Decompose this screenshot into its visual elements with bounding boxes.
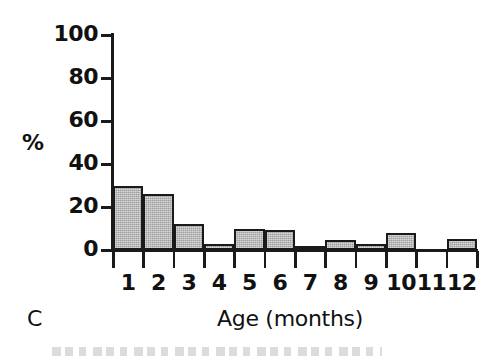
x-tick-label-10: 10 (384, 272, 418, 294)
x-tick-label-4: 4 (202, 272, 236, 294)
bar-month-8 (325, 240, 355, 250)
y-tick-0 (101, 249, 112, 252)
x-tick-3 (203, 251, 206, 268)
x-tick-6 (294, 251, 297, 268)
x-axis-title: Age (months) (160, 308, 420, 330)
x-tick-5 (264, 251, 267, 268)
bar-month-3 (174, 224, 204, 250)
x-tick-label-12: 12 (445, 272, 479, 294)
y-tick-label-40: 40 (20, 152, 98, 176)
x-tick-label-3: 3 (172, 272, 206, 294)
x-tick-label-6: 6 (263, 272, 297, 294)
y-tick-label-text: 60 (68, 109, 98, 131)
y-tick-label-100: 100 (20, 23, 98, 47)
x-tick-4 (233, 251, 236, 268)
y-tick-label-text: 40 (68, 152, 98, 174)
x-tick-label-8: 8 (324, 272, 358, 294)
bar-month-10 (386, 233, 416, 250)
y-tick-label-80: 80 (20, 66, 98, 90)
plot-area (113, 35, 477, 250)
y-tick-60 (101, 120, 112, 123)
y-tick-label-text: 100 (54, 23, 98, 45)
y-tick-label-60: 60 (20, 109, 98, 133)
y-tick-label-20: 20 (20, 195, 98, 219)
x-tick-1 (142, 251, 145, 268)
x-tick-label-1: 1 (111, 272, 145, 294)
x-tick-label-2: 2 (142, 272, 176, 294)
x-tick-label-5: 5 (233, 272, 267, 294)
y-tick-100 (101, 34, 112, 37)
y-axis-title: % (22, 132, 44, 154)
bar-month-4 (204, 244, 234, 250)
bar-month-5 (234, 229, 264, 251)
y-tick-label-text: 20 (68, 195, 98, 217)
x-tick-8 (355, 251, 358, 268)
y-tick-label-text: 80 (68, 66, 98, 88)
x-tick-2 (173, 251, 176, 268)
panel-label: C (27, 308, 42, 330)
bar-chart-figure: % 020406080100 123456789101112 Age (mont… (0, 0, 499, 358)
bar-month-2 (143, 194, 173, 250)
x-tick-11 (446, 251, 449, 268)
y-tick-40 (101, 163, 112, 166)
y-tick-label-0: 0 (20, 238, 98, 262)
bar-month-7 (295, 246, 325, 250)
y-tick-20 (101, 206, 112, 209)
x-tick-12 (476, 251, 479, 268)
x-tick-9 (385, 251, 388, 268)
bar-month-9 (356, 244, 386, 250)
y-tick-80 (101, 77, 112, 80)
x-tick-7 (324, 251, 327, 268)
x-tick-label-9: 9 (354, 272, 388, 294)
x-tick-10 (415, 251, 418, 268)
y-tick-label-text: 0 (83, 238, 98, 260)
x-tick-0 (112, 251, 115, 268)
clipped-caption-smudge (52, 347, 382, 356)
bar-month-1 (113, 186, 143, 251)
bar-month-6 (265, 230, 295, 250)
bar-month-12 (447, 239, 477, 250)
x-tick-label-11: 11 (415, 272, 449, 294)
x-tick-label-7: 7 (293, 272, 327, 294)
